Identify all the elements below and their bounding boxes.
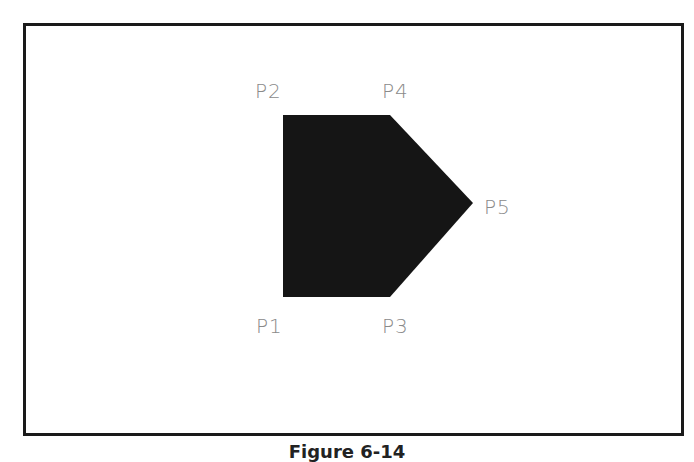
point-label-p3: P3	[382, 316, 409, 336]
figure-caption: Figure 6-14	[0, 443, 694, 461]
point-label-p2: P2	[255, 81, 282, 101]
point-label-p1: P1	[256, 316, 283, 336]
filled-pentagon-shape	[283, 115, 473, 297]
point-label-p5: P5	[484, 197, 511, 217]
point-label-p4: P4	[382, 81, 409, 101]
